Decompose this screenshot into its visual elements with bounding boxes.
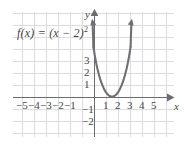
- xtick-label-1: 1: [103, 100, 109, 111]
- xtick-label-5: 5: [151, 100, 157, 111]
- parabola-figure: f(x) = (x − 2)2 y x −5 −4 −3 −2 −1 1 2 3…: [0, 0, 186, 146]
- xtick-label-neg5: −5: [16, 100, 28, 111]
- parabola-curve: [89, 18, 134, 97]
- xtick-label-neg2: −2: [52, 100, 64, 111]
- xtick-label-4: 4: [139, 100, 145, 111]
- function-label: f(x) = (x − 2)2: [17, 26, 88, 39]
- xtick-label-2: 2: [115, 100, 121, 111]
- ytick-label-3: 3: [84, 55, 90, 66]
- x-axis-label: x: [174, 101, 179, 112]
- xtick-label-neg3: −3: [40, 100, 52, 111]
- xtick-label-3: 3: [127, 100, 133, 111]
- xtick-label-neg4: −4: [28, 100, 40, 111]
- ytick-label-neg1: −1: [82, 104, 94, 115]
- function-label-text: f(x) = (x − 2): [17, 26, 84, 40]
- y-axis-label: y: [85, 9, 90, 20]
- function-label-exponent: 2: [84, 25, 88, 34]
- xtick-label-neg1: −1: [64, 100, 76, 111]
- ytick-label-2: 2: [84, 67, 90, 78]
- ytick-label-neg2: −2: [82, 116, 94, 127]
- ytick-label-1: 1: [84, 79, 90, 90]
